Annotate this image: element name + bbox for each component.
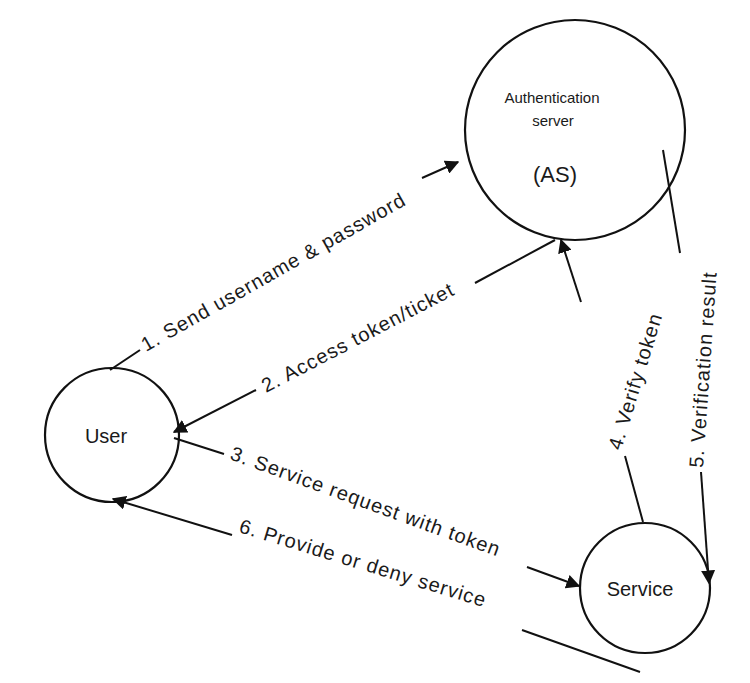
edge-4-line-start	[625, 456, 643, 522]
edge-1-line-end	[422, 162, 458, 178]
edge-4-label: 4. Verify token	[604, 310, 666, 452]
edge-5-label: 5. Verification result	[685, 271, 721, 469]
node-service: Service	[580, 523, 710, 653]
service-label: Service	[607, 578, 674, 600]
edge-4-verify-token: 4. Verify token	[561, 240, 666, 522]
as-title-line1: Authentication	[504, 89, 599, 106]
edge-6-provide-deny: 6. Provide or deny service	[113, 499, 640, 672]
edge-6-line-end	[113, 499, 232, 535]
as-abbr: (AS)	[533, 162, 577, 187]
node-authentication-server: Authentication server (AS)	[465, 20, 685, 240]
auth-flow-diagram: Authentication server (AS) User Service …	[0, 0, 750, 683]
edge-5-verification-result: 5. Verification result	[663, 150, 721, 583]
edge-2-line-end	[174, 390, 256, 432]
as-circle	[465, 20, 685, 240]
edge-1-line-start	[110, 350, 140, 370]
as-title-line2: server	[532, 112, 574, 129]
edge-2-label: 2. Access token/ticket	[258, 278, 458, 396]
edge-2-access-token: 2. Access token/ticket	[174, 240, 555, 432]
user-label: User	[85, 425, 128, 447]
edge-3-line-start	[174, 438, 224, 454]
edge-2-line-start	[475, 240, 555, 283]
edge-1-send-credentials: 1. Send username & password	[110, 162, 458, 370]
node-user: User	[45, 368, 179, 502]
edge-3-line-end	[527, 567, 579, 586]
edge-4-line-end	[561, 240, 581, 302]
